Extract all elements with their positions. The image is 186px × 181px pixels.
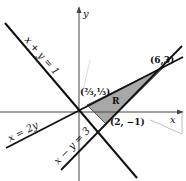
point-label: (6,3) xyxy=(150,55,174,66)
y-axis-arrow-icon xyxy=(77,6,82,13)
y-axis-label: y xyxy=(82,8,89,19)
region-label: R xyxy=(112,96,120,106)
region-diagram: y x x + y = 1 x = 2y x − y = 3 R (⅔,⅓) (… xyxy=(0,0,186,181)
scribble-mark xyxy=(150,112,182,134)
line-x-eq-2y xyxy=(6,57,183,148)
x-axis-label: x xyxy=(170,114,176,125)
x-axis-arrow-icon xyxy=(177,110,184,115)
point-label: (2, −1) xyxy=(110,117,145,128)
line-label: x + y = 1 xyxy=(22,34,61,77)
point-label: (⅔,⅓) xyxy=(80,87,110,98)
